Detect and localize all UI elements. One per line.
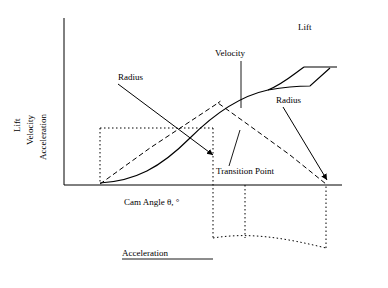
x-axis-label: Cam Angle θ, ° bbox=[124, 197, 180, 207]
radius-right-leader bbox=[283, 107, 327, 180]
chart-svg: Lift Velocity Radius Radius Transition P… bbox=[0, 0, 388, 288]
label-transition-point: Transition Point bbox=[216, 166, 274, 176]
velocity-curve-peak bbox=[218, 100, 222, 103]
label-lift: Lift bbox=[298, 22, 312, 32]
acceleration-negative-curve bbox=[213, 236, 326, 248]
label-radius-left: Radius bbox=[118, 72, 143, 82]
label-acceleration: Acceleration bbox=[122, 248, 168, 258]
y-axis-label-acceleration: Acceleration bbox=[38, 114, 48, 160]
lift-curve bbox=[100, 68, 330, 183]
velocity-curve bbox=[100, 103, 326, 184]
cam-motion-diagram: Lift Velocity Radius Radius Transition P… bbox=[0, 0, 388, 288]
label-velocity: Velocity bbox=[215, 48, 245, 58]
label-radius-right: Radius bbox=[276, 95, 301, 105]
radius-left-leader bbox=[118, 84, 213, 155]
y-axis-label-lift: Lift bbox=[12, 118, 22, 132]
transition-point-leader bbox=[229, 130, 240, 166]
y-axis-label-velocity: Velocity bbox=[25, 115, 35, 145]
